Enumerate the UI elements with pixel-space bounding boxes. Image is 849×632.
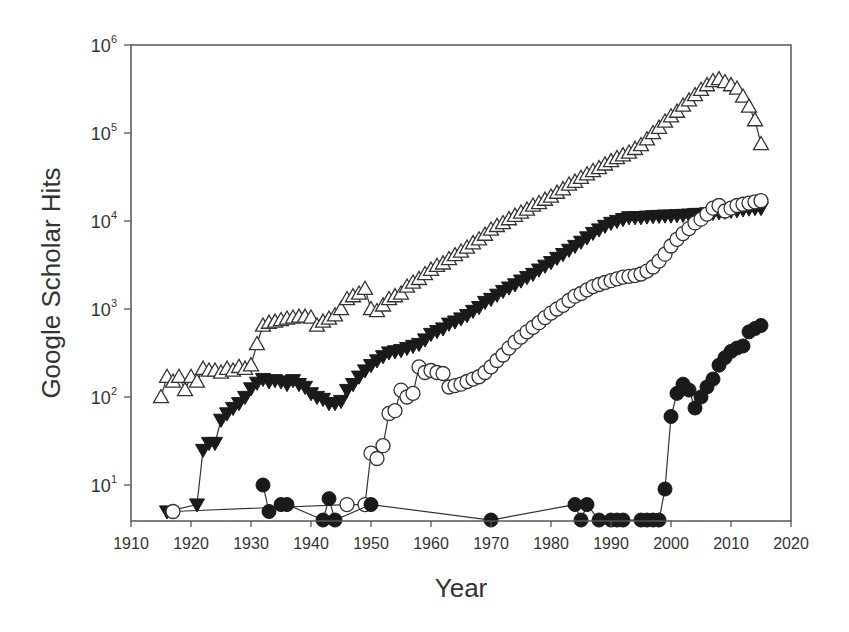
x-tick-label: 1940 <box>293 535 329 552</box>
data-point <box>364 498 378 512</box>
y-tick-label: 104 <box>91 209 117 232</box>
data-point <box>754 318 768 332</box>
data-point <box>256 478 270 492</box>
series-layer <box>154 72 769 527</box>
data-point <box>340 498 354 512</box>
data-point <box>370 452 384 466</box>
y-tick-label: 101 <box>91 473 117 496</box>
data-point <box>328 513 342 527</box>
data-point <box>406 386 420 400</box>
data-point <box>166 505 180 519</box>
data-point <box>388 404 402 418</box>
x-tick-label: 1950 <box>353 535 389 552</box>
data-point <box>754 136 769 149</box>
x-tick-label: 1990 <box>593 535 629 552</box>
data-point <box>574 513 588 527</box>
y-axis: 101102103104105106 <box>91 33 131 496</box>
data-point <box>754 194 768 208</box>
x-tick-label: 1960 <box>413 535 449 552</box>
data-point <box>280 498 294 512</box>
x-tick-label: 2010 <box>713 535 749 552</box>
x-tick-label: 2000 <box>653 535 689 552</box>
data-point <box>664 410 678 424</box>
y-tick-label: 102 <box>91 385 117 408</box>
y-tick-label: 105 <box>91 121 117 144</box>
data-point <box>580 498 594 512</box>
data-point <box>736 339 750 353</box>
x-tick-label: 1970 <box>473 535 509 552</box>
x-tick-label: 1920 <box>173 535 209 552</box>
data-point <box>616 513 630 527</box>
x-tick-label: 1980 <box>533 535 569 552</box>
y-tick-label: 103 <box>91 297 117 320</box>
data-point <box>178 383 193 396</box>
data-point <box>706 372 720 386</box>
data-point <box>748 113 763 126</box>
data-point <box>322 492 336 506</box>
x-tick-label: 1930 <box>233 535 269 552</box>
chart: 1910192019301940195019601970198019902000… <box>0 0 849 632</box>
x-axis: 1910192019301940195019601970198019902000… <box>113 521 809 552</box>
x-axis-title: Year <box>435 573 488 603</box>
data-point <box>652 513 666 527</box>
data-point <box>250 337 265 350</box>
data-point <box>376 439 390 453</box>
x-tick-label: 2020 <box>773 535 809 552</box>
data-point <box>154 390 169 403</box>
data-point <box>436 366 450 380</box>
plot-frame <box>131 45 791 521</box>
y-tick-label: 106 <box>91 33 117 56</box>
x-tick-label: 1910 <box>113 535 149 552</box>
data-point <box>658 482 672 496</box>
y-axis-title: Google Scholar Hits <box>36 167 66 398</box>
